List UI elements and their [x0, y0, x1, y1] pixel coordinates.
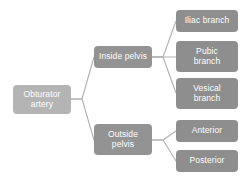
node-obturator-artery[interactable]: Obturator artery: [13, 85, 71, 114]
node-vesical-branch-label: Vesical branch: [193, 84, 221, 103]
node-anterior-label: Anterior: [192, 126, 223, 136]
connector-inside-to-iliac: [152, 21, 176, 57]
node-anterior[interactable]: Anterior: [176, 120, 238, 142]
node-iliac-branch-label: Iliac branch: [185, 16, 230, 26]
node-posterior[interactable]: Posterior: [176, 150, 238, 172]
node-posterior-label: Posterior: [190, 156, 225, 166]
connector-root-to-outside-pelvis: [71, 99, 94, 140]
node-outside-pelvis-label: Outside pelvis: [108, 130, 138, 149]
connector-outside-to-anterior: [152, 131, 176, 140]
connector-inside-to-vesical: [152, 57, 176, 93]
node-outside-pelvis[interactable]: Outside pelvis: [94, 124, 152, 155]
connector-outside-to-posterior: [152, 140, 176, 161]
node-vesical-branch[interactable]: Vesical branch: [176, 78, 238, 109]
node-iliac-branch[interactable]: Iliac branch: [176, 10, 238, 32]
node-pubic-branch[interactable]: Pubic branch: [176, 41, 238, 72]
node-inside-pelvis[interactable]: Inside pelvis: [94, 46, 152, 68]
node-obturator-artery-label: Obturator artery: [24, 90, 61, 109]
node-inside-pelvis-label: Inside pelvis: [99, 52, 147, 62]
connector-root-to-inside-pelvis: [71, 57, 94, 99]
obturator-artery-tree-diagram: Obturator artery Inside pelvis Outside p…: [0, 0, 245, 185]
node-pubic-branch-label: Pubic branch: [194, 47, 221, 66]
